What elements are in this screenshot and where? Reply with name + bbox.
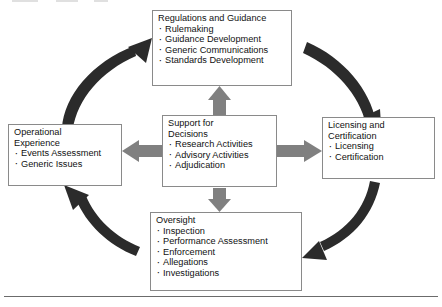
node-list-item: Investigations bbox=[156, 268, 301, 279]
node-list-item: Events Assessment bbox=[14, 148, 121, 159]
diagram-canvas: Regulations and Guidance Rulemaking Guid… bbox=[0, 0, 442, 307]
node-oversight[interactable]: Oversight Inspection Performance Assessm… bbox=[150, 212, 302, 291]
straight-arrow-support-to-operational bbox=[122, 140, 163, 162]
node-list-item: Standards Development bbox=[158, 55, 291, 66]
straight-arrow-support-to-licensing bbox=[277, 140, 322, 162]
node-list-item: Guidance Development bbox=[158, 34, 291, 45]
node-title: Operational Experience bbox=[9, 125, 121, 148]
node-title: Licensing and Certification bbox=[323, 118, 434, 141]
node-list-item: Performance Assessment bbox=[156, 236, 301, 247]
node-item-list: Licensing Certification bbox=[323, 141, 434, 162]
footer-divider bbox=[4, 296, 438, 297]
node-list-item: Advisory Activities bbox=[168, 150, 276, 161]
straight-arrow-support-to-oversight bbox=[208, 188, 231, 212]
node-item-list: Events Assessment Generic Issues bbox=[9, 148, 121, 169]
page-scan-artifact bbox=[8, 0, 148, 3]
straight-arrow-support-to-regulations bbox=[208, 86, 231, 116]
node-list-item: Generic Issues bbox=[14, 159, 121, 170]
node-list-item: Generic Communications bbox=[158, 45, 291, 56]
node-operational-experience[interactable]: Operational Experience Events Assessment… bbox=[8, 124, 122, 186]
node-list-item: Inspection bbox=[156, 226, 301, 237]
node-item-list: Inspection Performance Assessment Enforc… bbox=[151, 226, 301, 279]
node-regulations-and-guidance[interactable]: Regulations and Guidance Rulemaking Guid… bbox=[152, 10, 292, 86]
curved-arrow-licensing-to-oversight bbox=[302, 181, 380, 260]
node-list-item: Certification bbox=[328, 152, 434, 163]
curved-arrow-oversight-to-operational bbox=[64, 185, 140, 256]
node-list-item: Licensing bbox=[328, 141, 434, 152]
node-title: Regulations and Guidance bbox=[153, 11, 291, 24]
node-list-item: Allegations bbox=[156, 257, 301, 268]
node-licensing-and-certification[interactable]: Licensing and Certification Licensing Ce… bbox=[322, 117, 435, 179]
node-support-for-decisions[interactable]: Support for Decisions Research Activitie… bbox=[162, 115, 277, 187]
node-list-item: Rulemaking bbox=[158, 24, 291, 35]
node-item-list: Research Activities Advisory Activities … bbox=[163, 139, 276, 171]
node-title: Oversight bbox=[151, 213, 301, 226]
node-list-item: Research Activities bbox=[168, 139, 276, 150]
node-list-item: Enforcement bbox=[156, 247, 301, 258]
node-item-list: Rulemaking Guidance Development Generic … bbox=[153, 24, 291, 66]
curved-arrow-operational-to-regulations bbox=[62, 38, 152, 129]
node-title: Support for Decisions bbox=[163, 116, 276, 139]
node-list-item: Adjudication bbox=[168, 160, 276, 171]
